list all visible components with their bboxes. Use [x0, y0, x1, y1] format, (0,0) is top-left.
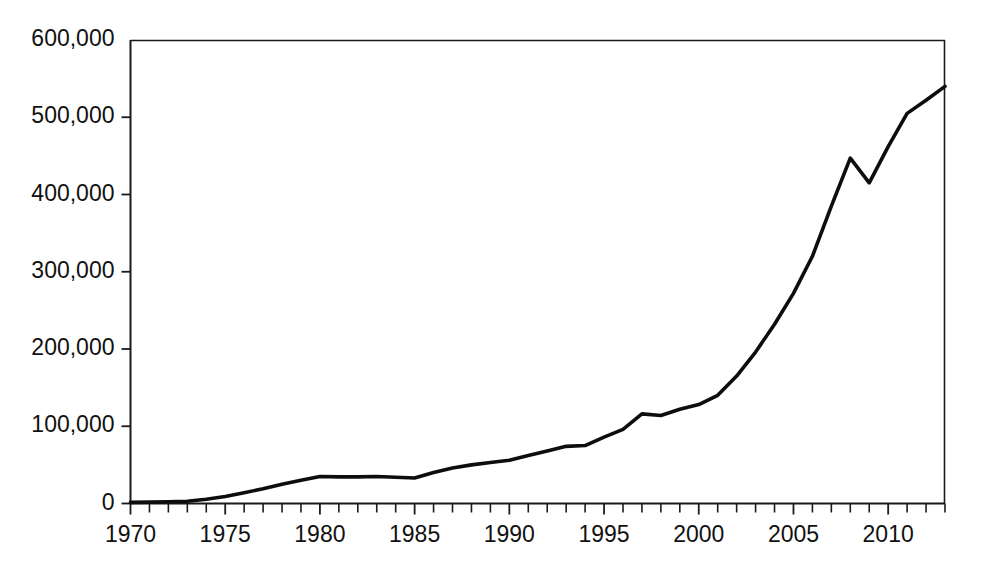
y-tick-label: 500,000: [31, 102, 114, 128]
y-tick-label: 400,000: [31, 180, 114, 206]
y-tick-label: 100,000: [31, 411, 114, 437]
line-chart: 0100,000200,000300,000400,000500,000600,…: [0, 0, 988, 572]
chart-container: 0100,000200,000300,000400,000500,000600,…: [0, 0, 988, 572]
x-tick-label: 2010: [863, 521, 914, 547]
x-axis-labels: 197019751980198519901995200020052010: [105, 521, 914, 547]
x-tick-label: 1975: [200, 521, 251, 547]
x-tick-label: 2000: [673, 521, 724, 547]
x-tick-label: 2005: [768, 521, 819, 547]
x-tick-label: 1985: [389, 521, 440, 547]
plot-frame: [131, 40, 946, 504]
x-tick-label: 1980: [294, 521, 345, 547]
y-tick-label: 0: [102, 489, 115, 515]
x-tick-label: 1970: [105, 521, 156, 547]
x-axis-ticks: [131, 504, 946, 515]
data-series-group: [131, 86, 946, 502]
y-tick-label: 200,000: [31, 334, 114, 360]
x-tick-label: 1990: [484, 521, 535, 547]
data-line-value: [131, 86, 946, 502]
x-tick-label: 1995: [578, 521, 629, 547]
y-axis: 0100,000200,000300,000400,000500,000600,…: [31, 25, 130, 515]
y-tick-label: 600,000: [31, 25, 114, 51]
y-tick-label: 300,000: [31, 257, 114, 283]
